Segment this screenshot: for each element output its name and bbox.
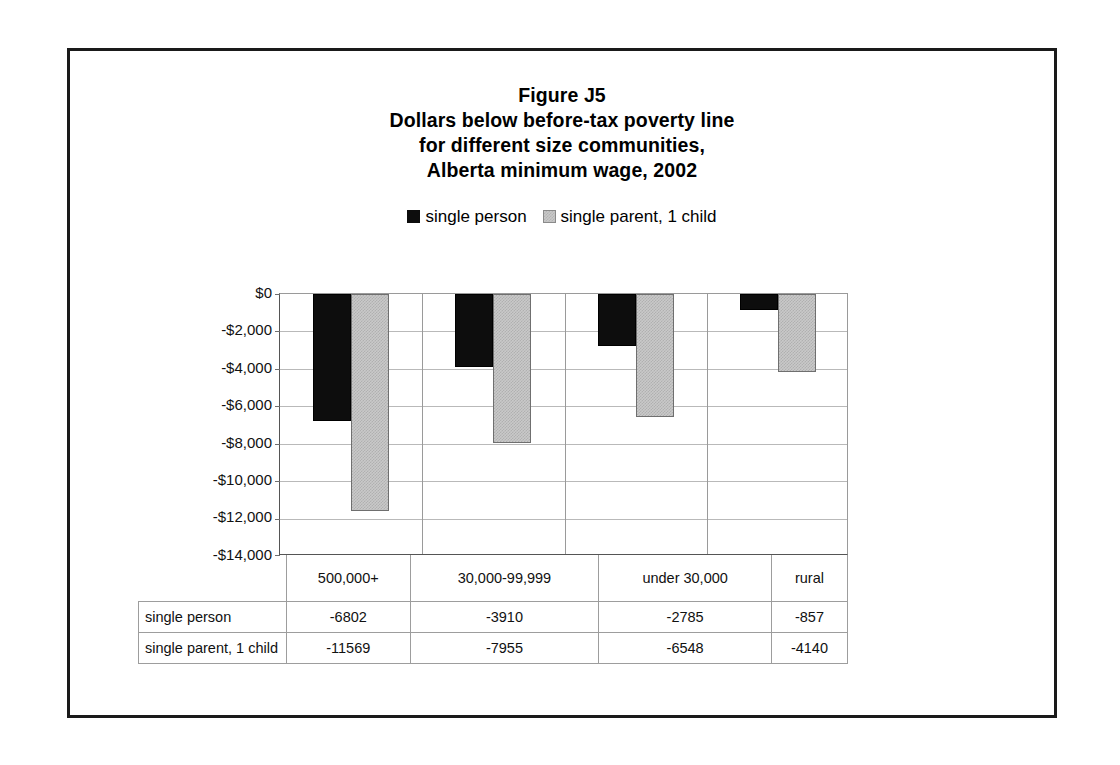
category-header-30000-99999: 30,000-99,999 [410, 555, 599, 602]
category-header-rural: rural [771, 555, 847, 602]
cell-single-person-500000plus: -6802 [287, 602, 411, 633]
cell-single-parent-rural: -4140 [771, 633, 847, 664]
bar-single-parent-under30000 [636, 294, 674, 417]
bar-single-person-500000plus [313, 294, 351, 421]
category-separator-1 [422, 294, 423, 554]
y-axis-tick-label-5: -$10,000 [213, 472, 272, 487]
y-tick-6000 [275, 406, 280, 407]
category-header-under30000: under 30,000 [599, 555, 772, 602]
cell-single-person-30000-99999: -3910 [410, 602, 599, 633]
category-separator-2 [565, 294, 566, 554]
cell-single-person-rural: -857 [771, 602, 847, 633]
y-axis-tick-label-3: -$6,000 [221, 397, 272, 412]
y-tick-0 [275, 294, 280, 295]
category-separator-3 [707, 294, 708, 554]
plot-area [279, 293, 848, 555]
y-axis-tick-label-6: -$12,000 [213, 509, 272, 524]
bar-single-person-under30000 [598, 294, 636, 346]
y-tick-8000 [275, 444, 280, 445]
y-axis-labels: $0 -$2,000 -$4,000 -$6,000 -$8,000 -$10,… [152, 293, 272, 555]
cell-single-person-under30000: -2785 [599, 602, 772, 633]
cell-single-parent-30000-99999: -7955 [410, 633, 599, 664]
bar-single-parent-30000-99999 [493, 294, 531, 443]
chart-data-table: 500,000+ 30,000-99,999 under 30,000 rura… [138, 555, 848, 664]
y-axis-tick-label-1: -$2,000 [221, 322, 272, 337]
row-label-single-person: single person [139, 602, 287, 633]
y-tick-2000 [275, 331, 280, 332]
y-axis-tick-label-4: -$8,000 [221, 435, 272, 450]
bar-single-parent-500000plus [351, 294, 389, 511]
category-header-500000plus: 500,000+ [287, 555, 411, 602]
table-corner-cell [139, 555, 287, 602]
cell-single-parent-under30000: -6548 [599, 633, 772, 664]
cell-single-parent-500000plus: -11569 [287, 633, 411, 664]
y-axis-tick-label-0: $0 [255, 285, 272, 300]
y-tick-10000 [275, 481, 280, 482]
y-tick-4000 [275, 369, 280, 370]
y-axis-tick-label-2: -$4,000 [221, 360, 272, 375]
bar-chart: $0 -$2,000 -$4,000 -$6,000 -$8,000 -$10,… [70, 51, 1054, 715]
bar-single-person-rural [740, 294, 778, 310]
bar-single-person-30000-99999 [455, 294, 493, 367]
bar-single-parent-rural [778, 294, 816, 372]
y-tick-12000 [275, 519, 280, 520]
gridline-12000 [280, 519, 847, 520]
figure-border: Figure J5 Dollars below before-tax pover… [67, 48, 1057, 718]
table-row: single person -6802 -3910 -2785 -857 [139, 602, 848, 633]
table-row: single parent, 1 child -11569 -7955 -654… [139, 633, 848, 664]
row-label-single-parent: single parent, 1 child [139, 633, 287, 664]
table-header-row: 500,000+ 30,000-99,999 under 30,000 rura… [139, 555, 848, 602]
